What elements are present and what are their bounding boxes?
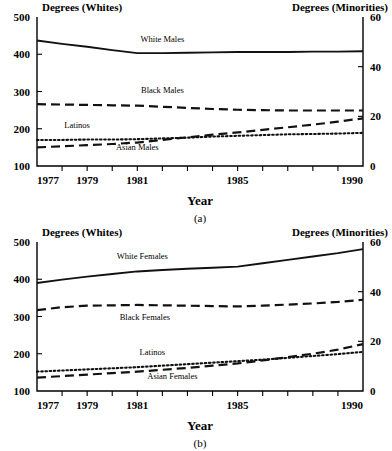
y-tick-label-left: 300: [14, 86, 31, 98]
plot-frame: [37, 17, 363, 166]
x-tick-label: 1977: [37, 174, 60, 186]
y-tick-label-right: 20: [370, 335, 382, 347]
x-tick-label: 1977: [37, 399, 60, 411]
series-label-black-males: Black Males: [141, 85, 184, 95]
series-line-black-females: [37, 300, 363, 310]
series-label-white-females: White Females: [117, 251, 168, 261]
y-tick-label-left: 200: [14, 123, 31, 135]
x-axis-title: Year: [187, 418, 213, 433]
series-line-latinos: [37, 133, 363, 140]
y-tick-label-left: 500: [14, 236, 31, 248]
chart-females: Degrees (Whites)Degrees (Minorities)1002…: [0, 225, 392, 451]
y-tick-label-left: 400: [14, 273, 31, 285]
series-line-black-males: [37, 104, 363, 110]
left-axis-header: Degrees (Whites): [42, 226, 122, 239]
x-tick-label: 1985: [227, 399, 250, 411]
y-tick-label-right: 60: [370, 11, 382, 23]
panel-caption: (b): [194, 437, 207, 450]
y-tick-label-right: 20: [370, 110, 382, 122]
x-tick-label: 1981: [126, 174, 148, 186]
y-tick-label-right: 0: [370, 385, 376, 397]
series-label-asian-females: Asian Females: [147, 371, 197, 381]
x-tick-label: 1981: [126, 399, 148, 411]
series-line-asian-females: [37, 344, 363, 378]
series-label-black-females: Black Females: [120, 312, 170, 322]
y-tick-label-left: 300: [14, 311, 31, 323]
series-label-latinos: Latinos: [64, 120, 90, 130]
y-tick-label-right: 0: [370, 160, 376, 172]
y-tick-label-left: 100: [14, 385, 31, 397]
y-tick-label-right: 40: [370, 61, 382, 73]
x-tick-label: 1990: [341, 399, 364, 411]
left-axis-header: Degrees (Whites): [42, 1, 122, 14]
x-tick-label: 1979: [76, 399, 99, 411]
x-tick-label: 1990: [341, 174, 364, 186]
figure-panel-a: Degrees (Whites)Degrees (Minorities)1002…: [0, 0, 392, 225]
x-tick-label: 1985: [227, 174, 250, 186]
y-tick-label-left: 200: [14, 348, 31, 360]
figure-panel-b: Degrees (Whites)Degrees (Minorities)1002…: [0, 225, 392, 451]
y-tick-label-left: 100: [14, 160, 31, 172]
y-tick-label-right: 40: [370, 286, 382, 298]
chart-males: Degrees (Whites)Degrees (Minorities)1002…: [0, 0, 392, 225]
series-line-latinos: [37, 352, 363, 372]
series-line-white-females: [37, 249, 363, 283]
y-tick-label-left: 500: [14, 11, 31, 23]
y-tick-label-left: 400: [14, 48, 31, 60]
plot-frame: [37, 242, 363, 391]
y-tick-label-right: 60: [370, 236, 382, 248]
series-line-white-males: [37, 40, 363, 53]
x-axis-title: Year: [187, 193, 213, 208]
series-label-asian-males: Asian Males: [116, 142, 159, 152]
x-tick-label: 1979: [76, 174, 99, 186]
series-label-latinos: Latinos: [140, 347, 166, 357]
series-label-white-males: White Males: [141, 34, 185, 44]
panel-caption: (a): [194, 212, 207, 225]
